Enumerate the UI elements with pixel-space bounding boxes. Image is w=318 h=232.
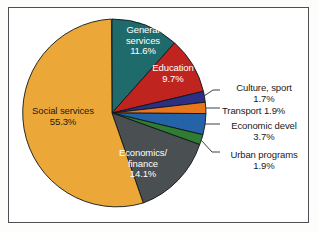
slice-value-education: 9.7% bbox=[145, 74, 201, 85]
slice-label-general-services: General services 11.6% bbox=[115, 25, 171, 57]
slice-label-social-services-line1: Social services bbox=[22, 106, 104, 117]
slice-label-culture-sport-line1: Culture, sport bbox=[222, 83, 306, 94]
slice-label-education-line1: Education bbox=[145, 63, 201, 74]
slice-label-transport: Transport 1.9% bbox=[222, 106, 310, 117]
leader-line-urban-programs bbox=[201, 140, 220, 152]
slice-label-education: Education 9.7% bbox=[145, 63, 201, 84]
slice-label-economic-devel: Economic devel 3.7% bbox=[222, 121, 306, 142]
slice-label-urban-programs: Urban programs 1.9% bbox=[222, 150, 306, 171]
pie-chart-figure: General services 11.6% Education 9.7% So… bbox=[0, 0, 318, 232]
slice-value-economic-devel: 3.7% bbox=[222, 132, 306, 143]
slice-label-economic-devel-line1: Economic devel bbox=[222, 121, 306, 132]
slice-label-culture-sport: Culture, sport 1.7% bbox=[222, 83, 306, 104]
slice-value-urban-programs: 1.9% bbox=[222, 161, 306, 172]
slice-label-economics-finance: Economics/ finance 14.1% bbox=[112, 148, 174, 180]
slice-value-general-services: 11.6% bbox=[115, 46, 171, 57]
slice-value-economics-finance: 14.1% bbox=[112, 169, 174, 180]
slice-value-culture-sport: 1.7% bbox=[222, 94, 306, 105]
slice-label-general-services-line1: General bbox=[115, 25, 171, 36]
slice-label-economics-finance-line1: Economics/ bbox=[112, 148, 174, 159]
slice-label-social-services: Social services 55.3% bbox=[22, 106, 104, 127]
slice-label-transport-line1: Transport 1.9% bbox=[222, 106, 310, 117]
leader-line-culture-sport bbox=[204, 90, 220, 96]
slice-label-urban-programs-line1: Urban programs bbox=[222, 150, 306, 161]
slice-value-social-services: 55.3% bbox=[22, 117, 104, 128]
